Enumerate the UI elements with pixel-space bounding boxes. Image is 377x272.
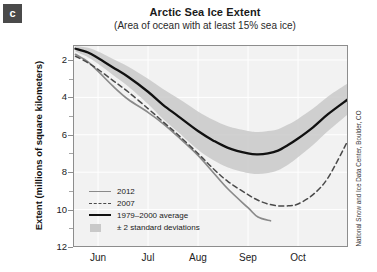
y-minor-tick-mark <box>69 153 73 154</box>
y-tick-mark <box>68 135 73 136</box>
y-tick-mark <box>68 210 73 211</box>
y-minor-tick-mark <box>69 191 73 192</box>
chart-legend: 2012 2007 1979–2000 average ± 2 standard… <box>88 186 200 234</box>
legend-label-average: 1979–2000 average <box>117 212 188 220</box>
panel-label-c: c <box>3 4 22 23</box>
legend-item-average: 1979–2000 average <box>88 210 200 222</box>
y-tick-label: 10 <box>47 204 67 215</box>
legend-swatch-stddev-band <box>88 223 112 233</box>
x-tick-label: Aug <box>178 252 218 263</box>
legend-item-stddev: ± 2 standard deviations <box>88 222 200 234</box>
y-minor-tick-mark <box>69 228 73 229</box>
chart-subtitle: (Area of ocean with at least 15% sea ice… <box>55 20 355 31</box>
x-tick-label: Oct <box>278 252 318 263</box>
chart-title: Arctic Sea Ice Extent <box>60 6 350 18</box>
legend-label-stddev: ± 2 standard deviations <box>117 224 200 232</box>
x-tick-label: Jun <box>78 252 118 263</box>
legend-item-2007: 2007 <box>88 198 200 210</box>
legend-label-2012: 2012 <box>117 188 135 196</box>
y-tick-mark <box>68 172 73 173</box>
y-tick-mark <box>68 97 73 98</box>
x-tick-label: Jul <box>128 252 168 263</box>
y-tick-mark <box>68 60 73 61</box>
data-source-credit: National Snow and Ice Data Center, Bould… <box>355 89 362 269</box>
legend-swatch-average-line <box>88 211 112 221</box>
legend-swatch-2012-line <box>88 187 112 197</box>
y-tick-label: 2 <box>47 54 67 65</box>
y-axis-label: Extent (millions of square kilometers) <box>33 46 44 246</box>
y-tick-mark <box>68 247 73 248</box>
y-minor-tick-mark <box>69 79 73 80</box>
y-tick-label: 4 <box>47 91 67 102</box>
y-tick-label: 12 <box>47 241 67 252</box>
y-minor-tick-mark <box>69 116 73 117</box>
x-tick-label: Sep <box>228 252 268 263</box>
legend-item-2012: 2012 <box>88 186 200 198</box>
legend-swatch-2007-line <box>88 199 112 209</box>
figure-panel: c Arctic Sea Ice Extent (Area of ocean w… <box>0 0 377 272</box>
y-tick-label: 8 <box>47 166 67 177</box>
legend-label-2007: 2007 <box>117 200 135 208</box>
y-tick-label: 6 <box>47 129 67 140</box>
